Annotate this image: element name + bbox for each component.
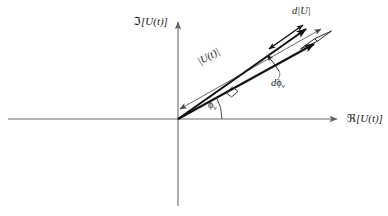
phase-angle-label: ϕv	[208, 100, 217, 111]
phase-angle-arc	[217, 98, 223, 120]
amplitude-differential-text: d|U|	[292, 5, 311, 16]
differential-quad-divider	[315, 39, 318, 41]
phasor-diagram-canvas	[0, 0, 388, 216]
phasor-diagram-figure: ℑ[U(t)] ℜ[U(t)] |U(t)| d|U| dϕv ϕv	[0, 0, 388, 216]
amplitude-differential-label: d|U|	[292, 6, 311, 17]
real-axis-label: ℜ[U(t)]	[347, 113, 383, 124]
imaginary-axis-argument: [U(t)]	[141, 15, 168, 27]
amplitude-differential-arrow	[269, 25, 303, 49]
imaginary-symbol: ℑ	[133, 15, 141, 28]
real-symbol: ℜ	[347, 112, 356, 125]
phase-differential-subscript: v	[282, 82, 285, 89]
phase-angle-subscript: v	[214, 104, 217, 111]
imaginary-axis-label: ℑ[U(t)]	[133, 16, 168, 27]
phasor-vector-rotated	[178, 29, 306, 119]
phase-differential-label: dϕv	[271, 78, 285, 89]
real-axis-argument: [U(t)]	[356, 112, 383, 124]
